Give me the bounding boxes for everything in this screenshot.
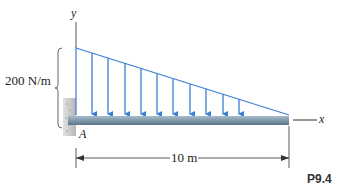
load-magnitude-label: 200 N/m <box>5 73 51 89</box>
point-a-label: A <box>79 127 86 142</box>
length-label: 10 m <box>171 150 197 166</box>
x-axis-label: x <box>319 112 324 127</box>
figure-id: P9.4 <box>307 172 332 186</box>
load-arrows <box>92 53 239 114</box>
load-brace <box>55 48 62 128</box>
beam <box>68 116 289 125</box>
y-axis-label: y <box>71 6 76 21</box>
